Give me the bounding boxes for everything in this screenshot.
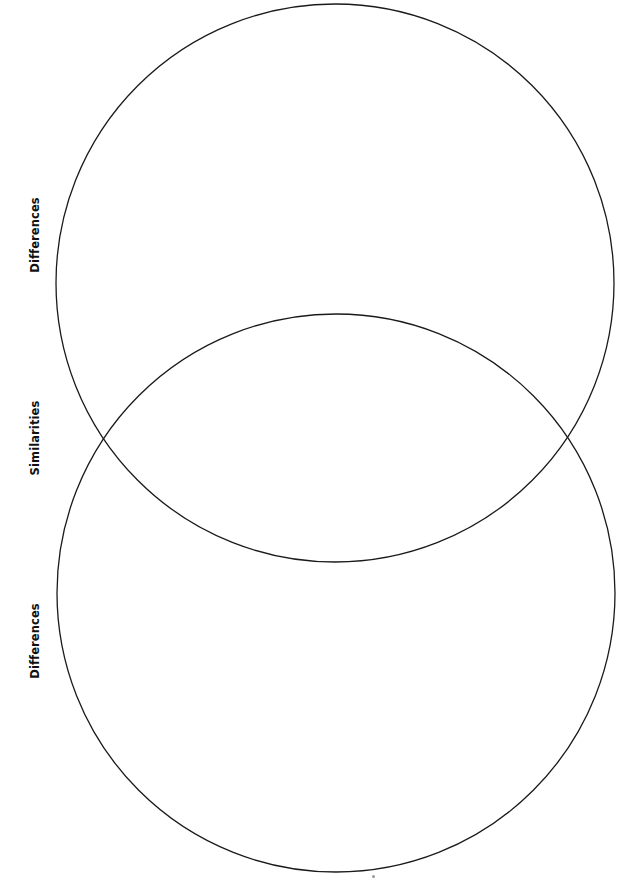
top-differences-label: Differences <box>28 197 42 273</box>
venn-diagram <box>0 0 630 885</box>
similarities-label: Similarities <box>28 401 42 476</box>
bottom-circle <box>57 314 615 872</box>
top-circle <box>56 4 614 562</box>
stray-mark <box>372 875 375 878</box>
bottom-differences-label: Differences <box>28 603 42 679</box>
